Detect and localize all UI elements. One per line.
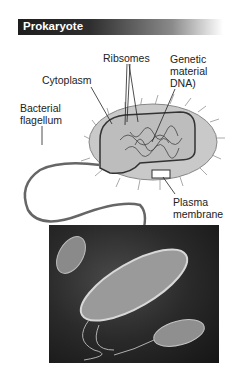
bacterium-flagella: [83, 320, 154, 360]
bacteria-photo-illustration: [49, 225, 219, 363]
bacterium-small-top: [51, 232, 92, 279]
plasma-membrane-inset: [152, 170, 170, 178]
bacterium-large: [71, 236, 197, 334]
bacterium-small-right: [151, 315, 207, 352]
bacteria-photo: [49, 225, 219, 363]
